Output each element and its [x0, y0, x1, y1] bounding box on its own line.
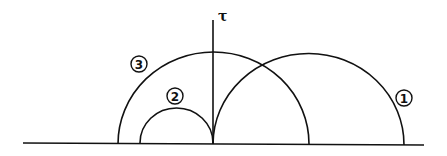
svg-text:3: 3: [135, 58, 143, 72]
semicircle-diagram: τ 3 2 1: [0, 0, 447, 156]
tau-axis-label: τ: [218, 8, 227, 24]
semicircle-2: [140, 108, 213, 143]
curve-label-3: 3: [131, 56, 147, 72]
horizontal-axis: [23, 143, 424, 145]
svg-text:1: 1: [400, 92, 408, 106]
svg-text:2: 2: [171, 90, 179, 104]
curve-label-2: 2: [167, 88, 183, 104]
curve-label-1: 1: [396, 90, 412, 106]
